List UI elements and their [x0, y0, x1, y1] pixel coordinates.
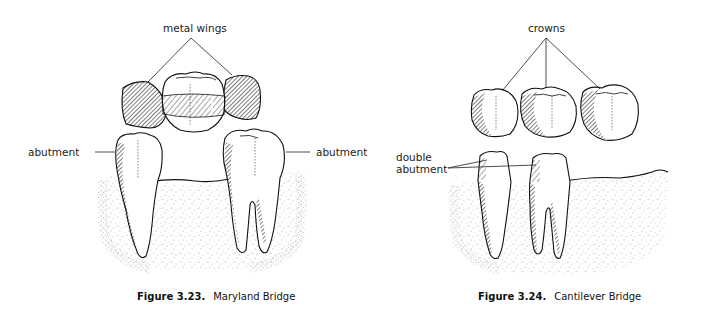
cantilever-bridge-illustration — [448, 38, 668, 274]
figure-title: Maryland Bridge — [213, 291, 295, 302]
figure-number: Figure 3.23. — [137, 291, 205, 302]
figure-title: Cantilever Bridge — [554, 291, 641, 302]
label-crowns: crowns — [528, 22, 565, 34]
label-left-abutment: abutment — [28, 146, 79, 158]
maryland-bridge-appliance — [122, 72, 261, 132]
figure-caption-3-23: Figure 3.23.Maryland Bridge — [137, 291, 295, 302]
figure-caption-3-24: Figure 3.24.Cantilever Bridge — [478, 291, 641, 302]
label-metal-wings: metal wings — [163, 22, 227, 34]
figure-number: Figure 3.24. — [478, 291, 546, 302]
label-right-abutment: abutment — [316, 146, 367, 158]
label-double-abutment: abutment — [396, 163, 447, 175]
dental-bridge-illustrations — [0, 0, 702, 329]
label-double: double — [396, 151, 432, 163]
maryland-bridge-illustration — [95, 38, 310, 270]
crowns-appliance — [471, 85, 638, 141]
